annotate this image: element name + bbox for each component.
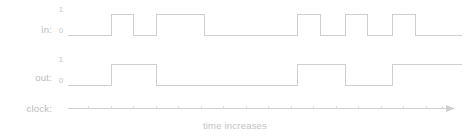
waveform-in	[68, 15, 462, 36]
timing-diagram: in: out: clock: 1 0 1 0 time increases	[0, 0, 470, 138]
waveform-out	[68, 65, 462, 86]
waveform-canvas	[0, 0, 470, 138]
clock-arrow-icon	[446, 105, 455, 112]
x-axis-caption: time increases	[0, 120, 470, 131]
